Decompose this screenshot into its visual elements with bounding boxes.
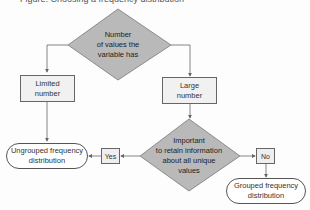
ungrouped-frequency-terminal: Ungrouped frequency distribution xyxy=(6,143,88,169)
no-label: No xyxy=(256,148,275,164)
yes-label: Yes xyxy=(101,148,120,164)
flowchart: Figure: Choosing a frequency distributio… xyxy=(0,0,310,210)
large-number-box: Large number xyxy=(162,77,217,104)
limited-number-box: Limited number xyxy=(20,75,75,102)
decision-2-label: Important to retain information about al… xyxy=(145,136,233,176)
decision-1-label: Number of values the variable has xyxy=(78,30,158,60)
cut-off-title: Figure: Choosing a frequency distributio… xyxy=(20,0,184,4)
grouped-frequency-terminal: Grouped frequency distribution xyxy=(226,178,306,204)
